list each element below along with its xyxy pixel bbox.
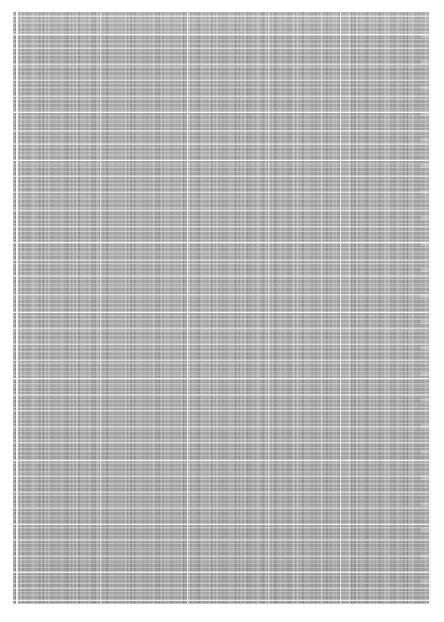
column-separator [340,12,341,604]
row-separator [13,160,431,161]
row-separator [13,260,431,261]
row-separator [13,394,431,395]
row-separator [13,226,431,227]
row-separator [13,242,431,243]
table-body [13,12,431,604]
row-separator [13,540,431,541]
row-separator [13,144,431,145]
row-separator [13,426,431,427]
row-separator [13,294,431,295]
column-separator [16,12,18,604]
row-separator [13,508,431,509]
row-separator [13,492,431,493]
row-separator [13,460,431,461]
row-separator [13,378,431,379]
row-separator [13,360,431,361]
row-separator [13,96,431,97]
row-separator [13,572,431,573]
row-separator [13,176,431,177]
row-separator [13,410,431,411]
row-separator [13,80,431,81]
row-separator [13,276,431,277]
column-separator [100,12,101,604]
column-separator [268,12,269,604]
row-separator [13,130,431,131]
row-separator [13,556,431,557]
row-rule-grid-secondary [13,12,431,604]
column-separator [187,12,188,604]
document-page [0,0,444,622]
row-separator [13,312,431,313]
row-separator [13,112,431,113]
row-separator [13,328,431,329]
row-separator [13,344,431,345]
column-separator [429,12,431,604]
row-separator [13,48,431,49]
row-separator [13,192,431,193]
row-separator [13,64,431,65]
row-separator [13,210,431,211]
row-separator [13,588,431,589]
row-separator [13,524,431,525]
row-separator [13,442,431,443]
row-separator [13,600,431,601]
row-separator [13,16,431,17]
row-separator [13,34,431,35]
row-separator [13,476,431,477]
